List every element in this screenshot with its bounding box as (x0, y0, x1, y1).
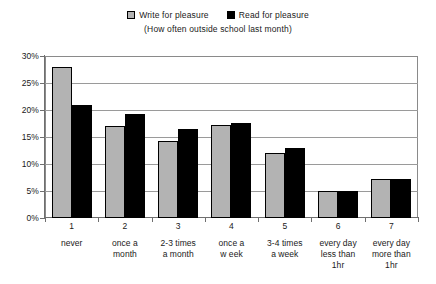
x-tick-mark (98, 218, 99, 222)
x-axis-category-number: 7 (365, 221, 418, 232)
bar-group (311, 56, 364, 218)
x-axis-category-number: 4 (205, 221, 258, 232)
x-axis-category-label: once a w eek (205, 238, 258, 260)
legend-swatch-read-icon (227, 11, 235, 19)
bar-read-7 (391, 179, 411, 218)
y-tick-label: 10% (22, 159, 39, 169)
x-axis-category-label: every day less than 1hr (311, 238, 364, 271)
bar-read-5 (285, 148, 305, 218)
bar-group (98, 56, 151, 218)
bar-group (205, 56, 258, 218)
x-axis-labels: 1never2once a month32-3 times a month4on… (45, 221, 418, 281)
x-axis-category-label: 3-4 times a week (258, 238, 311, 260)
x-axis-category-label: never (45, 238, 98, 249)
x-tick-mark (152, 218, 153, 222)
legend-label-read: Read for pleasure (239, 10, 309, 20)
x-axis-category-number: 3 (152, 221, 205, 232)
x-tick-mark (418, 218, 419, 222)
bar-read-1 (72, 105, 92, 218)
y-tick-label: 30% (22, 51, 39, 61)
x-axis-category-label: 2-3 times a month (152, 238, 205, 260)
x-axis-label-cell: 7every day more than 1hr (365, 221, 418, 281)
x-axis-category-number: 1 (45, 221, 98, 232)
x-tick-mark (365, 218, 366, 222)
bar-group (152, 56, 205, 218)
bar-read-2 (125, 114, 145, 218)
x-axis-category-number: 5 (258, 221, 311, 232)
y-tick-label: 20% (22, 105, 39, 115)
x-axis-label-cell: 53-4 times a week (258, 221, 311, 281)
legend-label-write: Write for pleasure (139, 10, 209, 20)
x-axis-label-cell: 1never (45, 221, 98, 281)
x-axis-label-cell: 6every day less than 1hr (311, 221, 364, 281)
x-axis-label-cell: 2once a month (98, 221, 151, 281)
legend-item-write: Write for pleasure (127, 10, 209, 20)
plot-wrap: 30%25%20%15%10%5%0% (45, 56, 418, 218)
bar-write-6 (318, 191, 338, 218)
chart-subtitle: (How often outside school last month) (0, 24, 436, 34)
bar-write-3 (158, 141, 178, 218)
x-axis-label-cell: 32-3 times a month (152, 221, 205, 281)
x-axis-category-label: every day more than 1hr (365, 238, 418, 271)
y-tick-label: 25% (22, 78, 39, 88)
bar-read-3 (178, 129, 198, 218)
bar-write-1 (52, 67, 72, 218)
x-tick-mark (205, 218, 206, 222)
x-axis-category-label: once a month (98, 238, 151, 260)
y-tick-label: 5% (27, 186, 40, 196)
x-axis-label-cell: 4once a w eek (205, 221, 258, 281)
bar-group (45, 56, 98, 218)
bar-write-2 (105, 126, 125, 218)
x-tick-mark (311, 218, 312, 222)
chart-legend: Write for pleasure Read for pleasure (0, 10, 436, 20)
legend-swatch-write-icon (127, 11, 135, 19)
legend-item-read: Read for pleasure (227, 10, 309, 20)
bar-write-5 (265, 153, 285, 218)
bar-read-6 (338, 191, 358, 218)
bar-chart: Write for pleasure Read for pleasure (Ho… (0, 0, 436, 284)
x-axis-category-number: 2 (98, 221, 151, 232)
x-tick-mark (45, 218, 46, 222)
y-tick-label: 15% (22, 132, 39, 142)
bar-write-7 (371, 179, 391, 218)
bar-group (365, 56, 418, 218)
x-tick-mark (258, 218, 259, 222)
y-tick-label: 0% (27, 213, 40, 223)
bar-read-4 (231, 123, 251, 218)
bar-groups (45, 56, 418, 218)
bar-write-4 (211, 125, 231, 218)
x-axis-category-number: 6 (311, 221, 364, 232)
bar-group (258, 56, 311, 218)
